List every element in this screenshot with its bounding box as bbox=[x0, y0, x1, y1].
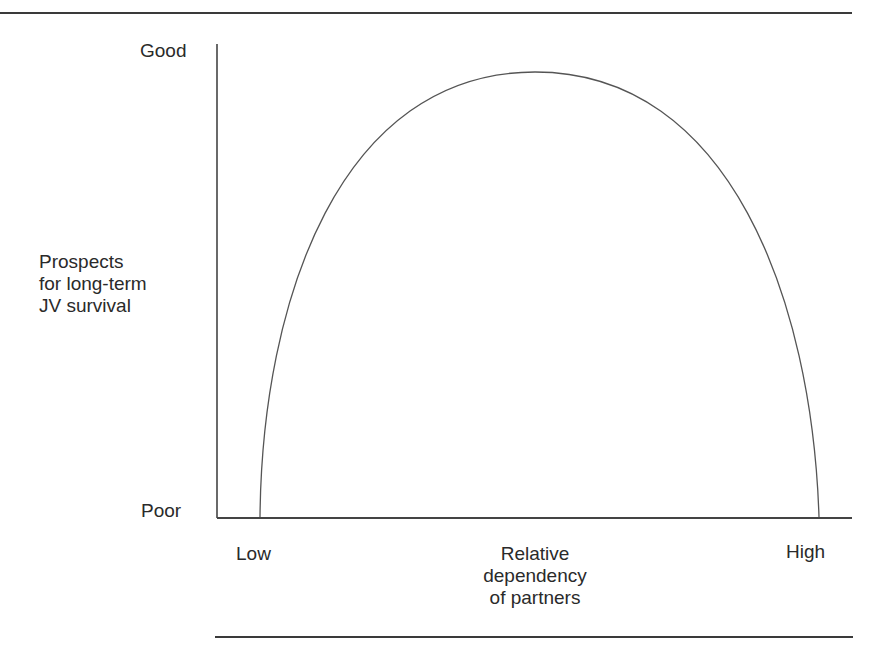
x-axis-label-line: Relative bbox=[470, 543, 600, 565]
y-tick-good: Good bbox=[140, 40, 186, 62]
y-axis-label-line: JV survival bbox=[39, 295, 147, 317]
y-axis-label: Prospects for long-term JV survival bbox=[39, 251, 147, 317]
x-tick-high: High bbox=[786, 541, 825, 563]
y-axis-label-line: Prospects bbox=[39, 251, 147, 273]
x-axis-label: Relative dependency of partners bbox=[470, 543, 600, 609]
plot-area bbox=[0, 0, 881, 659]
x-axis-label-line: dependency bbox=[470, 565, 600, 587]
y-tick-poor: Poor bbox=[141, 500, 181, 522]
x-axis-label-line: of partners bbox=[470, 587, 600, 609]
survival-curve bbox=[260, 72, 819, 517]
x-tick-low: Low bbox=[236, 543, 271, 565]
y-axis-label-line: for long-term bbox=[39, 273, 147, 295]
